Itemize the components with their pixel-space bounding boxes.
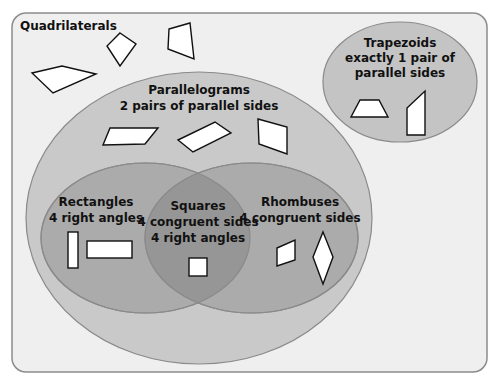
rectangle-shape-icon — [87, 241, 132, 258]
trapezoids-property-line1: exactly 1 pair of — [345, 51, 456, 65]
quadrilaterals-venn-diagram: Quadrilaterals Parallelograms 2 pairs of… — [0, 0, 494, 379]
rectangles-property: 4 right angles — [49, 211, 143, 225]
parallelograms-label: Parallelograms — [148, 83, 250, 97]
rectangles-label: Rectangles — [59, 195, 134, 209]
diagram-title: Quadrilaterals — [20, 19, 117, 33]
parallelograms-property: 2 pairs of parallel sides — [120, 99, 279, 113]
trapezoids-label: Trapezoids — [364, 36, 437, 50]
square-shape-icon — [189, 258, 207, 276]
rhombuses-property: 4 congruent sides — [239, 211, 360, 225]
squares-label: Squares — [170, 199, 225, 213]
squares-property-line2: 4 right angles — [151, 231, 245, 245]
trapezoids-property-line2: parallel sides — [355, 66, 446, 80]
rhombuses-label: Rhombuses — [261, 195, 339, 209]
rectangle-shape-icon — [68, 232, 78, 268]
